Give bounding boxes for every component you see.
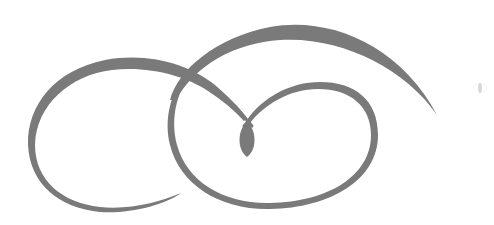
print-speck xyxy=(478,83,482,93)
right-loop xyxy=(168,77,378,209)
left-loop xyxy=(28,58,247,213)
calligraphic-flourish: Decorative calligraphic flourish ornamen… xyxy=(0,0,494,225)
upper-arc xyxy=(170,25,437,115)
